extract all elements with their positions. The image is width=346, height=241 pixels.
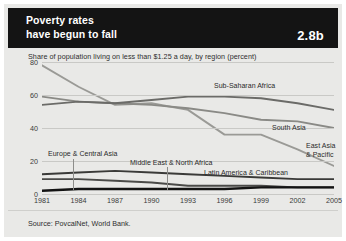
gridline-y-80 [42,62,334,63]
title-line-2: have begun to fall [26,27,117,41]
x-axis-tick-1999: 1999 [253,196,269,205]
series-line-europe-central-asia [42,179,334,187]
x-axis-tick-2002: 2002 [290,196,306,205]
series-label-europe-central-asia: Europe & Central Asia [48,150,118,159]
series-label-south-asia: South Asia [272,124,306,133]
x-axis-tick-1990: 1990 [144,196,160,205]
y-axis-tick-20: 20 [30,157,38,166]
x-axis-tick-1981: 1981 [34,196,50,205]
y-axis-tick-80: 80 [30,58,38,67]
series-line-middle-east-north-africa [42,171,334,179]
series-label-line: Sub-Saharan Africa [214,82,275,91]
series-label-line: South Asia [272,124,306,133]
page-title: Poverty rates have begun to fall [26,13,117,41]
source-divider [8,210,338,211]
series-label-sub-saharan-africa: Sub-Saharan Africa [214,82,275,91]
title-line-1: Poverty rates [26,13,117,27]
leader-line-middle-east-north-africa [167,167,168,190]
x-axis-tick-1984: 1984 [71,196,87,205]
series-line-latin-america-caribbean [42,187,334,190]
source-note: Source: PovcalNet, World Bank. [28,219,131,228]
y-axis-tick-40: 40 [30,124,38,133]
series-label-line: Europe & Central Asia [48,150,118,159]
series-label-line: Latin America & Caribbean [204,169,288,178]
leader-line-europe-central-asia [73,159,74,190]
figure-number-badge: 2.8b [297,28,324,43]
figure-header: Poverty rates have begun to fall 2.8b [8,8,338,48]
gridline-y-60 [42,95,334,96]
series-label-latin-america-caribbean: Latin America & Caribbean [204,169,288,178]
y-axis-tick-60: 60 [30,91,38,100]
x-axis-tick-2005: 2005 [326,196,342,205]
series-label-east-asia-pacific: East Asia& Pacific [306,142,335,159]
series-label-line: Middle East & North Africa [130,159,212,168]
series-label-line: East Asia [306,142,335,151]
series-label-line: & Pacific [306,151,335,160]
figure-container: Poverty rates have begun to fall 2.8b Sh… [0,0,346,241]
x-axis-tick-1987: 1987 [107,196,123,205]
gridline-y-0 [42,194,334,195]
chart-subtitle: Share of population living on less than … [28,52,256,61]
series-label-middle-east-north-africa: Middle East & North Africa [130,159,212,168]
x-axis-tick-1996: 1996 [217,196,233,205]
x-axis-tick-1993: 1993 [180,196,196,205]
